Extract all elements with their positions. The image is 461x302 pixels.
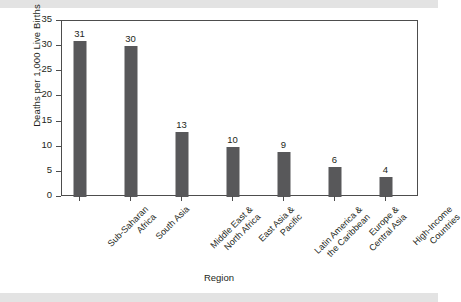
bar-value-label: 4 (383, 164, 388, 175)
y-axis-tick-label: 5 (47, 164, 52, 175)
bar[interactable] (379, 177, 392, 197)
bar[interactable] (73, 41, 86, 197)
bar-value-label: 6 (332, 154, 337, 165)
x-axis-category-label: Europe &Central Asia (359, 204, 408, 253)
bar[interactable] (175, 132, 188, 197)
bar-value-label: 30 (125, 33, 136, 44)
y-axis-title: Deaths per 1,000 Live Births (31, 0, 42, 146)
y-axis-tick-label: 35 (41, 13, 52, 24)
plot-area: 31301310964 (61, 20, 418, 196)
x-axis-tick-mark (130, 196, 131, 201)
y-axis-tick-label: 25 (41, 63, 52, 74)
bar-value-label: 9 (281, 139, 286, 150)
bar[interactable] (124, 46, 137, 197)
bar[interactable] (328, 167, 341, 197)
page-band-top (0, 0, 438, 8)
y-axis-tick-label: 30 (41, 38, 52, 49)
x-axis-category-label: East Asia &Pacific (256, 204, 303, 251)
bar-chart-figure: Deaths per 1,000 Live Births 05101520253… (0, 8, 438, 293)
x-axis-tick-mark (334, 196, 335, 201)
y-axis-tick-label: 10 (41, 139, 52, 150)
y-axis-tick-label: 0 (47, 189, 52, 200)
x-axis-tick-mark (232, 196, 233, 201)
bar-value-label: 10 (227, 134, 238, 145)
bar-value-label: 13 (176, 119, 187, 130)
x-axis-tick-mark (283, 196, 284, 201)
bar[interactable] (277, 152, 290, 197)
page-band-bottom (0, 293, 438, 302)
y-axis-tick-mark (56, 196, 61, 197)
y-axis-tick-label: 15 (41, 114, 52, 125)
x-axis-category-label: High-IncomeCountries (410, 204, 461, 255)
x-axis-title: Region (0, 272, 438, 283)
y-axis-tick-label: 20 (41, 88, 52, 99)
x-axis-tick-mark (385, 196, 386, 201)
x-axis-tick-mark (79, 196, 80, 201)
bar[interactable] (226, 147, 239, 197)
x-axis-tick-mark (181, 196, 182, 201)
x-axis-category-label: South Asia (153, 204, 191, 242)
bar-value-label: 31 (74, 28, 85, 39)
x-axis-category-label: Middle East &North Africa (208, 204, 262, 258)
x-axis-category-label: Sub-SaharanAfrica (105, 204, 157, 256)
x-axis-category-label-line: South Asia (153, 204, 191, 242)
